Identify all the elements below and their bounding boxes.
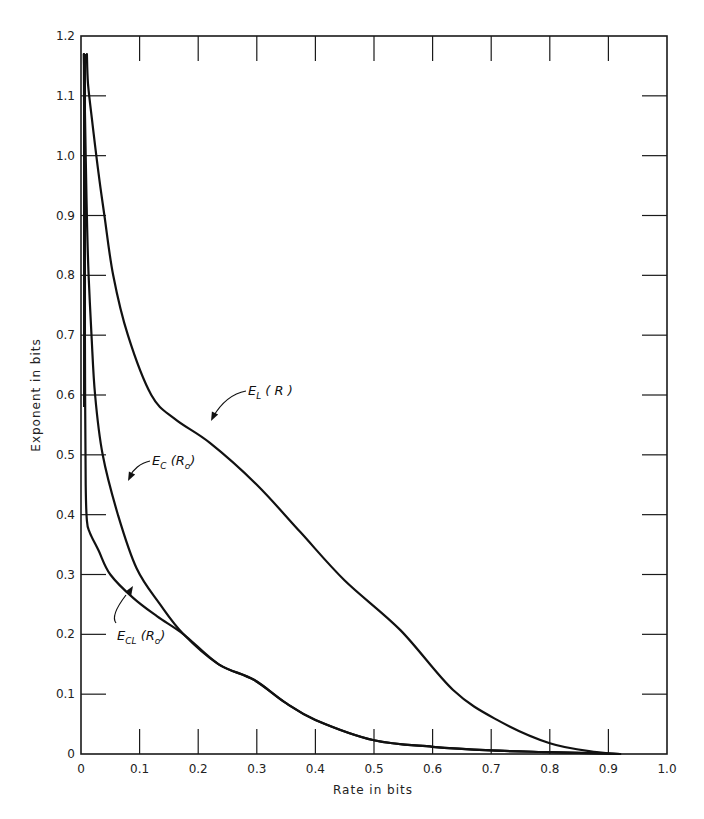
label-e-cl-label-sub: CL [125, 636, 136, 646]
x-tick-label: 1.0 [657, 762, 676, 776]
y-tick-label: 0.6 [56, 388, 75, 402]
curve-e-c [84, 54, 620, 754]
y-tick-label: 0.5 [56, 448, 75, 462]
label-e-c-label-rest: (R [167, 453, 185, 468]
curves [84, 54, 620, 754]
x-tick-label: 0.7 [482, 762, 501, 776]
label-e-c-label-end: ) [189, 453, 195, 468]
arrowhead-icon [211, 411, 218, 421]
y-tick-label: 1.2 [56, 29, 75, 43]
label-e-cl: ECL (Ro) [117, 628, 165, 646]
x-tick-label: 0.5 [364, 762, 383, 776]
arrow-e-l [213, 391, 246, 417]
axis-ticks [81, 36, 667, 754]
label-e-cl-label-rest: (R [137, 628, 155, 643]
label-e-c: EC (Ro) [152, 453, 195, 471]
y-tick-label: 0 [67, 747, 75, 761]
chart: 00.10.20.30.40.50.60.70.80.91.0 00.10.20… [0, 0, 704, 819]
plot-frame [81, 36, 667, 754]
y-tick-label: 0.3 [56, 568, 75, 582]
y-tick-label: 0.2 [56, 627, 75, 641]
y-tick-label: 0.1 [56, 687, 75, 701]
label-e-l: EL ( R ) [248, 383, 293, 401]
x-tick-label: 0.2 [189, 762, 208, 776]
y-axis-label: Exponent in bits [29, 338, 43, 451]
x-tick-label: 0.6 [423, 762, 442, 776]
y-tick-labels: 00.10.20.30.40.50.60.70.80.91.01.11.2 [56, 29, 75, 761]
y-tick-label: 0.8 [56, 268, 75, 282]
label-e-cl-label-end: ) [159, 628, 165, 643]
x-tick-label: 0.9 [599, 762, 618, 776]
label-e-l-label-rest: ( R ) [261, 383, 293, 398]
x-tick-labels: 00.10.20.30.40.50.60.70.80.91.0 [77, 762, 676, 776]
y-tick-label: 0.4 [56, 508, 75, 522]
x-tick-label: 0 [77, 762, 85, 776]
curve-e-cl [84, 54, 620, 754]
y-tick-label: 1.0 [56, 149, 75, 163]
y-tick-label: 0.7 [56, 328, 75, 342]
plot-border [81, 36, 667, 754]
curve-annotations: EL ( R )EC (Ro)ECL (Ro) [114, 383, 292, 646]
curve-e-l [87, 54, 620, 754]
x-tick-label: 0.4 [306, 762, 325, 776]
x-axis-label: Rate in bits [333, 783, 413, 797]
y-tick-label: 1.1 [56, 89, 75, 103]
arrowhead-icon [128, 471, 135, 481]
y-tick-label: 0.9 [56, 209, 75, 223]
x-tick-label: 0.1 [130, 762, 149, 776]
x-tick-label: 0.3 [247, 762, 266, 776]
x-tick-label: 0.8 [540, 762, 559, 776]
arrow-e-cl [114, 595, 126, 623]
